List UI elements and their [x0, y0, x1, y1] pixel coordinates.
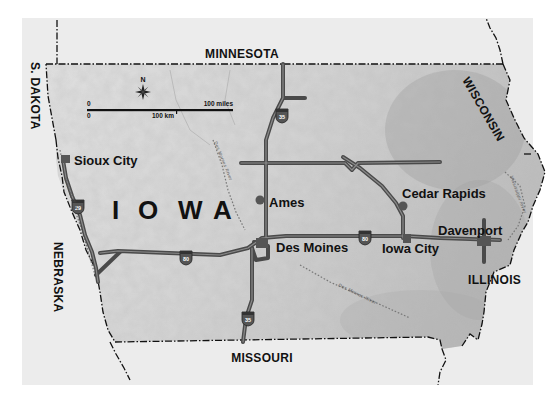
city-marker-des-moines [256, 238, 268, 248]
state-label-nebraska: NEBRASKA [51, 242, 65, 312]
iowa-map: 35 29 80 80 35 N 0 100 miles [0, 0, 553, 404]
city-marker-ames [256, 196, 265, 205]
city-label-des-moines: Des Moines [276, 240, 348, 255]
city-label-sioux-city: Sioux City [74, 153, 138, 168]
compass-north-label: N [140, 76, 145, 83]
city-label-iowa-city: Iowa City [382, 241, 440, 256]
title-letter: O [138, 195, 158, 225]
scale-km-end: 100 km [152, 112, 174, 119]
city-label-ames: Ames [269, 195, 304, 210]
shield-number: 80 [362, 236, 368, 242]
state-label-missouri: MISSOURI [231, 351, 293, 365]
interstate-shield-80-west: 80 [180, 251, 192, 265]
interstate-shield-35-north: 35 [276, 109, 288, 123]
scale-km-start: 0 [87, 112, 91, 119]
state-label-south-dakota: S. DAKOTA [28, 62, 42, 130]
scale-miles-start: 0 [87, 100, 91, 107]
city-marker-cedar-rapids [399, 202, 408, 211]
state-label-illinois: ILLINOIS [468, 273, 521, 287]
city-label-cedar-rapids: Cedar Rapids [402, 186, 486, 201]
shield-number: 35 [279, 114, 285, 120]
shield-number: 35 [245, 317, 251, 323]
title-letter: A [213, 195, 232, 225]
interstate-shield-35-south: 35 [242, 312, 254, 326]
city-marker-sioux-city [61, 155, 70, 163]
title-letter: I [112, 195, 119, 225]
interstate-shield-80-east: 80 [359, 231, 371, 245]
city-label-davenport: Davenport [438, 223, 503, 238]
scale-miles-end: 100 miles [204, 100, 234, 107]
title-letter: W [178, 195, 203, 225]
shield-number: 80 [183, 256, 189, 262]
state-label-minnesota: MINNESOTA [205, 47, 279, 61]
